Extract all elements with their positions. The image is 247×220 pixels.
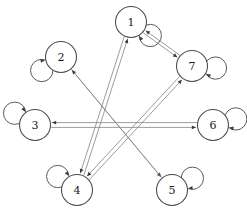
edge-4-to-7 (89, 80, 182, 180)
self-loops-layer (3, 24, 246, 189)
node-label-5: 5 (169, 184, 176, 197)
node-label-7: 7 (189, 60, 196, 73)
node-label-3: 3 (32, 119, 39, 132)
node-4[interactable]: 4 (62, 175, 93, 206)
graph-figure: 1234567 (0, 0, 247, 220)
edge-line-7-1 (146, 31, 180, 56)
node-1[interactable]: 1 (116, 7, 147, 38)
nodes-layer: 1234567 (20, 7, 229, 206)
node-label-1: 1 (128, 16, 135, 29)
edge-6-to-3 (52, 121, 197, 125)
node-6[interactable]: 6 (198, 110, 229, 141)
edge-7-to-1 (146, 31, 180, 56)
edge-5-to-2 (72, 70, 162, 178)
edge-1-to-4 (80, 37, 124, 174)
self-loop-arrow-4 (65, 171, 69, 176)
edge-line-1-7 (143, 33, 177, 58)
node-label-2: 2 (58, 51, 65, 64)
arrow-head-7-to-1 (146, 31, 151, 35)
node-label-6: 6 (210, 119, 217, 132)
node-3[interactable]: 3 (20, 110, 51, 141)
node-label-4: 4 (74, 184, 81, 197)
edge-line-5-2 (72, 70, 162, 178)
edge-3-to-6 (51, 126, 196, 130)
edge-line-7-4 (87, 76, 180, 176)
edge-4-to-1 (84, 39, 128, 176)
arrow-head-6-to-3 (52, 121, 56, 125)
edge-line-1-4 (80, 37, 124, 174)
edge-line-4-7 (89, 80, 182, 180)
graph-canvas: 1234567 (0, 0, 247, 220)
edge-line-4-1 (84, 39, 128, 176)
self-loop-arrow-1 (139, 36, 143, 41)
arrow-head-3-to-6 (192, 126, 196, 130)
node-2[interactable]: 2 (46, 42, 77, 73)
arrow-head-1-to-7 (173, 53, 178, 57)
node-7[interactable]: 7 (177, 51, 208, 82)
edge-1-to-7 (143, 33, 177, 58)
node-5[interactable]: 5 (157, 175, 188, 206)
arrow-head-4-to-1 (125, 39, 129, 44)
edge-7-to-4 (87, 76, 180, 176)
arrow-head-1-to-4 (80, 169, 84, 174)
